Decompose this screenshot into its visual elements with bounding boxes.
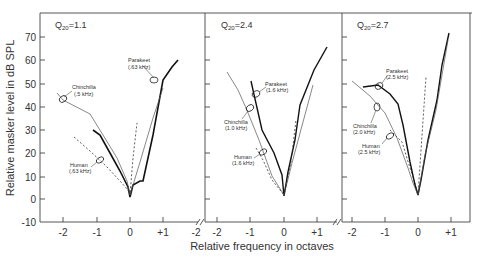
svg-text:(2.0 kHz): (2.0 kHz) [353,129,375,135]
axis-break-mark [337,219,341,225]
svg-text:+1: +1 [445,227,457,238]
svg-text:30: 30 [25,125,37,136]
svg-text:-2: -2 [348,227,357,238]
svg-text:-1: -1 [381,227,390,238]
svg-text:60: 60 [25,55,37,66]
series-parakeet-3 [363,33,449,195]
svg-text:(1.0 kHz): (1.0 kHz) [225,125,247,131]
svg-text:Chinchilla: Chinchilla [72,84,97,90]
q20-label-1: Q20=1.1 [55,20,86,31]
panel-1: Q20=1.1 Parakeet (.63 kHz) Chinchilla (.… [55,20,178,197]
svg-text:Parakeet: Parakeet [128,57,150,63]
panel-2: Q20=2.4 Parakeet (1.6 kHz) Chinchilla (1… [221,20,327,196]
y-ticks [40,37,347,199]
svg-text:40: 40 [25,102,37,113]
svg-text:-10: -10 [22,217,37,228]
svg-text:(.5 kHz): (.5 kHz) [74,91,93,97]
marker-chinchilla-2 [245,103,255,113]
axis-break-mark [200,219,204,225]
masking-chart: 70 60 50 40 30 20 10 0 -10 -2 -1 0 +1 -2… [0,0,481,258]
series-human-3 [390,77,426,195]
svg-text:(2.5 kHz): (2.5 kHz) [358,149,380,155]
svg-text:50: 50 [25,79,37,90]
svg-text:(1.6 kHz): (1.6 kHz) [232,160,254,166]
x-axis-title: Relative frequency in octaves [190,240,334,252]
svg-text:-2: -2 [192,227,201,238]
series-chinchilla-1 [57,88,163,195]
svg-text:(.63 kHz): (.63 kHz) [69,168,91,174]
panel-3: Q20=2.7 Parakeet (2.5 kHz) Chinchilla (2… [352,20,449,195]
x-ticks [63,217,451,222]
svg-text:0: 0 [281,227,287,238]
svg-text:+1: +1 [311,227,323,238]
svg-text:-2: -2 [213,227,222,238]
q20-label-3: Q20=2.7 [357,20,388,31]
svg-text:-1: -1 [246,227,255,238]
svg-text:10: 10 [25,172,37,183]
svg-text:0: 0 [127,227,133,238]
y-axis-title: Relative masker level in dB SPL [4,40,16,197]
svg-text:(2.5 kHz): (2.5 kHz) [386,74,408,80]
marker-human-1 [95,156,104,164]
svg-text:+1: +1 [157,227,169,238]
svg-text:0: 0 [30,194,36,205]
svg-text:-2: -2 [59,227,68,238]
svg-text:-1: -1 [93,227,102,238]
panel-frames [40,13,472,225]
x-tick-labels: -2 -1 0 +1 -2 -2 -1 0 +1 -2 -1 0 +1 [59,227,458,238]
svg-text:70: 70 [25,32,37,43]
q20-label-2: Q20=2.4 [221,20,252,31]
svg-text:(.63 kHz): (.63 kHz) [128,64,150,70]
svg-text:20: 20 [25,148,37,159]
svg-text:(1.6 kHz): (1.6 kHz) [266,87,288,93]
svg-text:0: 0 [415,227,421,238]
y-tick-labels: 70 60 50 40 30 20 10 0 -10 [22,32,37,228]
